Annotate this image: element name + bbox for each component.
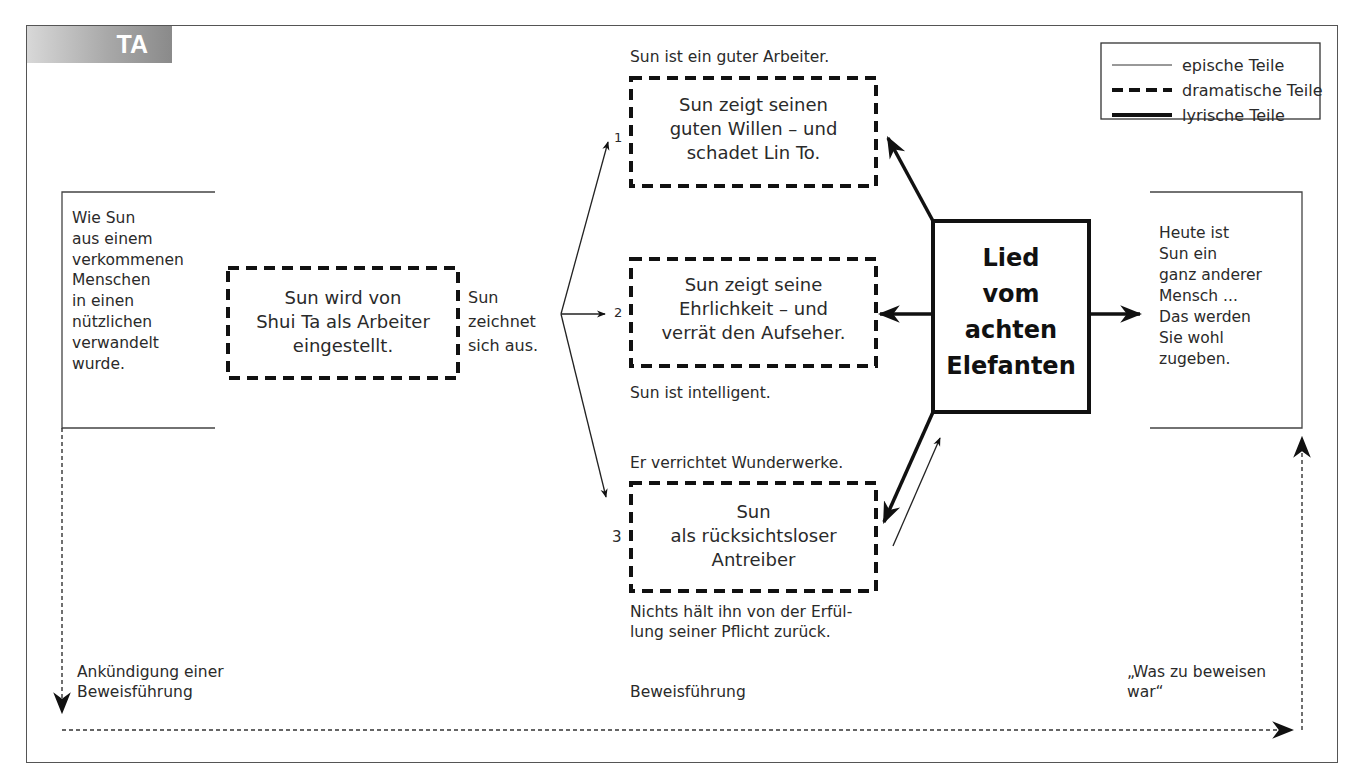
scene-1-text: Sun zeigt seinen guten Willen – und scha… [633,93,874,165]
right-epic-text: Heute ist Sun ein ganz anderer Mensch ..… [1159,223,1262,370]
scene-3-caption-above: Er verrichtet Wunderwerke. [630,453,843,473]
scene-3-text: Sun als rücksichtsloser Antreiber [633,500,874,572]
start-scene-text: Sun wird von Shui Ta als Arbeiter einges… [230,286,456,358]
legend-label-dramatic: dramatische Teile [1182,81,1322,101]
scene-1-caption-above: Sun ist ein guter Arbeiter. [630,47,829,67]
scene-2-number: 2 [614,305,622,320]
scene-2-text: Sun zeigt seine Ehrlichkeit – und verrät… [633,273,874,345]
song-title: Lied vom achten Elefanten [935,240,1087,384]
arrow-scene-3-to-song [893,438,940,546]
branch-arrows [561,142,608,497]
scene-2-caption-below: Sun ist intelligent. [630,383,771,403]
transition-label: Sun zeichnet sich aus. [468,286,538,358]
bottom-label-proof: Beweisführung [630,682,746,702]
legend-label-lyric: lyrische Teile [1182,106,1285,126]
scene-3-caption-below: Nichts hält ihn von der Erfül- lung sein… [630,602,852,642]
arrow-song-to-scene-3 [884,412,933,522]
scene-3-number: 3 [612,528,622,546]
scene-1-number: 1 [614,130,622,145]
arrow-to-scene-1 [561,142,608,314]
left-epic-text: Wie Sun aus einem verkommenen Menschen i… [72,208,184,374]
arrow-to-scene-3 [561,314,606,497]
bottom-label-qed: „Was zu beweisen war“ [1127,662,1266,702]
legend-label-epic: epische Teile [1182,56,1284,76]
arrow-song-to-scene-1 [888,138,933,221]
bottom-label-announcement: Ankündigung einer Beweisführung [77,662,224,702]
